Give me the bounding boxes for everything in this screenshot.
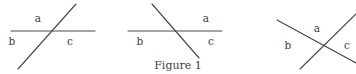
diagram-middle-angle-label-a: a [203,13,209,24]
diagram-left-angle-label-b: b [9,36,16,47]
diagram-middle-angle-label-c: c [208,36,214,47]
figure-caption: Figure 1 [154,60,202,71]
diagram-right-angle-label-b: b [285,40,292,51]
figure-canvas: abcabcabc Figure 1 [0,0,356,74]
diagram-left-angle-label-a: a [35,13,41,24]
diagram-right-angle-label-a: a [314,23,320,34]
diagram-left [11,4,95,69]
diagram-middle-angle-label-b: b [137,36,144,47]
diagram-right-angle-label-c: c [344,40,350,51]
diagram-left-angle-label-c: c [67,36,73,47]
